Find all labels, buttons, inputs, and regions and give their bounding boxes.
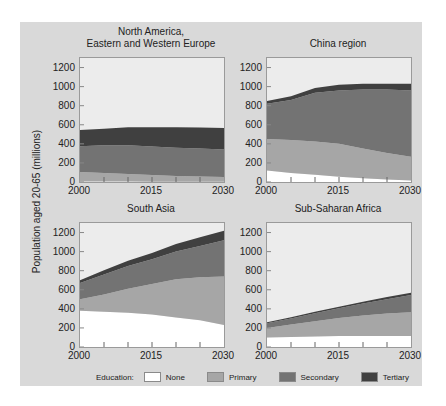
title-line-1: China region: [248, 38, 428, 50]
legend-text-tertiary: Tertiary: [383, 373, 409, 382]
subplot-title-south-asia: South Asia: [61, 203, 241, 215]
title-line-1: South Asia: [61, 203, 241, 215]
legend-swatch-primary: [207, 372, 224, 382]
y-tick-label: 800: [45, 101, 75, 111]
y-tick-label: 1000: [45, 247, 75, 257]
y-tick-label: 200: [232, 158, 262, 168]
y-tick-label: 1200: [232, 228, 262, 238]
x-tick-label: 2015: [318, 186, 358, 196]
x-tick-label: 2000: [246, 351, 286, 361]
legend-swatch-none: [144, 372, 161, 382]
x-tick-label: 2030: [390, 351, 430, 361]
plot-area-south-asia: [79, 222, 225, 348]
y-tick-label: 600: [45, 120, 75, 130]
subplot-title-north-america-europe: North America,Eastern and Western Europe: [61, 26, 241, 50]
y-tick-label: 1200: [45, 63, 75, 73]
x-tick-label: 2030: [390, 186, 430, 196]
y-tick-label: 400: [232, 139, 262, 149]
x-tick-label: 2015: [131, 351, 171, 361]
plot-area-sub-saharan-africa: [266, 222, 412, 348]
y-tick-label: 200: [45, 158, 75, 168]
plot-area-north-america-europe: [79, 57, 225, 183]
y-tick-label: 400: [45, 304, 75, 314]
y-tick-label: 800: [232, 101, 262, 111]
y-tick-label: 800: [45, 266, 75, 276]
subplot-title-sub-saharan-africa: Sub-Saharan Africa: [248, 203, 428, 215]
legend-text-secondary: Secondary: [301, 373, 339, 382]
legend-item-primary: Primary: [207, 372, 257, 382]
y-tick-label: 600: [45, 285, 75, 295]
x-tick-label: 2015: [131, 186, 171, 196]
y-tick-label: 400: [45, 139, 75, 149]
legend-label: Education:: [96, 373, 134, 382]
y-axis-label: Population aged 20-65 (millions): [31, 112, 42, 292]
area-secondary: [80, 145, 224, 177]
y-tick-label: 400: [232, 304, 262, 314]
legend-text-none: None: [166, 373, 185, 382]
y-tick-label: 1200: [45, 228, 75, 238]
y-tick-label: 1200: [232, 63, 262, 73]
y-tick-label: 600: [232, 120, 262, 130]
y-tick-label: 200: [45, 323, 75, 333]
subplot-title-china-region: China region: [248, 38, 428, 50]
legend-item-secondary: Secondary: [279, 372, 339, 382]
legend-swatch-tertiary: [361, 372, 378, 382]
legend-text-primary: Primary: [229, 373, 257, 382]
x-tick-label: 2000: [59, 186, 99, 196]
x-tick-label: 2015: [318, 351, 358, 361]
legend-item-tertiary: Tertiary: [361, 372, 409, 382]
plot-area-china-region: [266, 57, 412, 183]
title-line-2: Eastern and Western Europe: [61, 38, 241, 50]
y-tick-label: 1000: [232, 82, 262, 92]
legend: Education: None Primary Secondary Tertia…: [96, 371, 431, 383]
title-line-1: Sub-Saharan Africa: [248, 203, 428, 215]
x-tick-label: 2000: [59, 351, 99, 361]
x-tick-label: 2000: [246, 186, 286, 196]
y-tick-label: 1000: [232, 247, 262, 257]
legend-item-none: None: [144, 372, 185, 382]
y-tick-label: 800: [232, 266, 262, 276]
y-tick-label: 200: [232, 323, 262, 333]
legend-swatch-secondary: [279, 372, 296, 382]
x-tick-label: 2030: [203, 186, 243, 196]
y-tick-label: 1000: [45, 82, 75, 92]
y-tick-label: 600: [232, 285, 262, 295]
x-tick-label: 2030: [203, 351, 243, 361]
title-line-1: North America,: [61, 26, 241, 38]
